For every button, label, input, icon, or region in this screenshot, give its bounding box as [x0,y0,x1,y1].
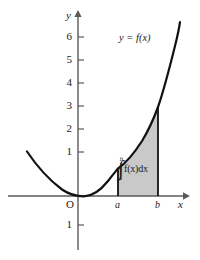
plot-canvas [0,0,200,260]
integrand-expression: f(x)dx [124,164,148,174]
origin-label: O [66,199,74,210]
integral-upper-limit: b [120,156,123,163]
y-axis-ticks-positive [78,37,84,152]
y-tick-label-5: 5 [57,54,72,65]
x-axis-arrowhead [183,192,190,199]
integral-lower-limit: a [119,175,123,182]
y-tick-label-4: 4 [57,77,72,88]
x-axis-label: x [178,199,183,210]
y-tick-label-1: 1 [57,146,72,157]
lower-bound-label-a: a [115,200,120,210]
y-tick-label-2: 2 [57,123,72,134]
integral-area-figure: 6 5 4 3 2 1 1 y x O a b y = f(x) ∫ b a f… [0,0,200,260]
y-tick-label-6: 6 [57,31,72,42]
y-axis-label: y [66,10,71,21]
integral-expression: ∫ b a f(x)dx [118,158,148,179]
curve-label: y = f(x) [119,33,151,44]
y-tick-label-neg-1: 1 [57,219,72,230]
upper-bound-label-b: b [155,200,160,210]
y-axis-arrowhead [74,10,81,17]
y-tick-label-3: 3 [57,100,72,111]
